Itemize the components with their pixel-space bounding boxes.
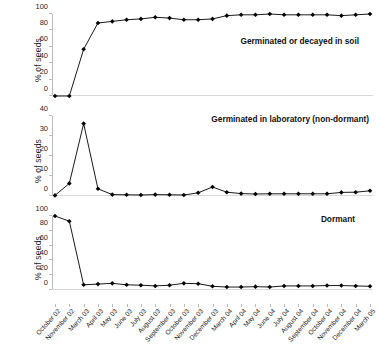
data-point-marker	[167, 193, 172, 198]
data-point-marker	[310, 192, 315, 197]
panel-dormant: % of seeds 020406080100 Dormant	[0, 212, 375, 304]
data-point-marker	[225, 285, 230, 290]
y-tick-label: 80	[40, 220, 48, 228]
data-point-marker	[325, 283, 330, 288]
data-point-marker	[81, 283, 86, 288]
data-point-marker	[53, 214, 58, 219]
data-point-marker	[210, 17, 215, 22]
y-tick-label: 0	[44, 85, 48, 93]
data-point-marker	[282, 192, 287, 197]
data-point-marker	[325, 13, 330, 18]
data-point-marker	[282, 13, 287, 18]
data-point-marker	[296, 192, 301, 197]
panel-annotation: Germinated in laboratory (non-dormant)	[211, 114, 369, 124]
data-point-marker	[353, 284, 358, 289]
data-point-marker	[96, 21, 101, 26]
data-point-marker	[353, 190, 358, 195]
series-polyline	[55, 14, 370, 96]
y-tick-label: 10	[40, 165, 48, 173]
data-point-marker	[124, 17, 129, 22]
y-tick-label: 20	[40, 68, 48, 76]
data-point-marker	[368, 284, 373, 289]
data-point-marker	[153, 192, 158, 197]
series-polyline	[55, 124, 370, 196]
panel-germinated-or-decayed-in-soil: % of seeds 020406080100 Germinated or de…	[0, 10, 375, 110]
data-point-marker	[296, 284, 301, 289]
data-point-marker	[239, 13, 244, 18]
data-point-marker	[267, 12, 272, 17]
data-point-marker	[81, 121, 86, 126]
y-tick-label: 20	[40, 145, 48, 153]
series-line	[52, 116, 373, 196]
data-point-marker	[368, 189, 373, 194]
plot-area: 020406080100	[52, 216, 373, 290]
data-point-marker	[53, 94, 58, 99]
data-point-marker	[196, 17, 201, 22]
y-tick-label: 0	[44, 185, 48, 193]
plot-area: 020406080100	[52, 14, 373, 96]
data-point-marker	[225, 190, 230, 195]
y-axis-label: % of seeds	[33, 236, 43, 280]
data-point-marker	[139, 17, 144, 22]
data-point-marker	[325, 192, 330, 197]
data-point-marker	[253, 284, 258, 289]
data-point-marker	[124, 193, 129, 198]
series-polyline	[55, 216, 370, 287]
y-tick-label: 30	[40, 125, 48, 133]
data-point-marker	[110, 192, 115, 197]
data-point-marker	[196, 191, 201, 196]
data-point-marker	[196, 281, 201, 286]
data-point-marker	[182, 17, 187, 22]
y-tick-label: 60	[40, 36, 48, 44]
data-point-marker	[310, 284, 315, 289]
panel-annotation: Germinated or decayed in soil	[241, 36, 360, 46]
x-axis-labels: October 02November 02March 03April 03May…	[52, 304, 373, 364]
data-point-marker	[339, 283, 344, 288]
y-tick-label: 40	[40, 105, 48, 113]
data-point-marker	[110, 281, 115, 286]
data-point-marker	[282, 284, 287, 289]
data-point-marker	[81, 47, 86, 52]
data-point-marker	[239, 285, 244, 290]
data-point-marker	[167, 283, 172, 288]
plot-area: 010203040	[52, 116, 373, 196]
y-tick-label: 40	[40, 52, 48, 60]
data-point-marker	[253, 192, 258, 197]
y-tick-label: 40	[40, 249, 48, 257]
data-point-marker	[210, 185, 215, 190]
data-point-marker	[67, 219, 72, 224]
y-tick-label: 60	[40, 234, 48, 242]
data-point-marker	[267, 192, 272, 197]
data-point-marker	[310, 13, 315, 18]
data-point-marker	[353, 13, 358, 18]
data-point-marker	[110, 19, 115, 24]
data-point-marker	[296, 13, 301, 18]
data-point-marker	[182, 193, 187, 198]
data-point-marker	[139, 193, 144, 198]
data-point-marker	[182, 281, 187, 286]
data-point-marker	[167, 16, 172, 21]
data-point-marker	[253, 13, 258, 18]
data-point-marker	[153, 15, 158, 20]
y-tick-label: 20	[40, 264, 48, 272]
data-point-marker	[339, 13, 344, 18]
data-point-marker	[124, 283, 129, 288]
data-point-marker	[210, 284, 215, 289]
data-point-marker	[239, 191, 244, 196]
data-point-marker	[267, 285, 272, 290]
panel-annotation: Dormant	[321, 214, 355, 224]
y-tick-label: 100	[35, 3, 48, 11]
y-tick-label: 100	[35, 205, 48, 213]
series-line	[52, 216, 373, 290]
data-point-marker	[139, 283, 144, 288]
data-point-marker	[368, 12, 373, 17]
panel-germinated-in-laboratory: % of seeds 010203040 Germinated in labor…	[0, 112, 375, 210]
data-point-marker	[67, 94, 72, 99]
y-tick-label: 80	[40, 19, 48, 27]
data-point-marker	[339, 190, 344, 195]
data-point-marker	[225, 13, 230, 18]
data-point-marker	[96, 187, 101, 192]
y-tick-label: 0	[44, 279, 48, 287]
series-line	[52, 14, 373, 96]
